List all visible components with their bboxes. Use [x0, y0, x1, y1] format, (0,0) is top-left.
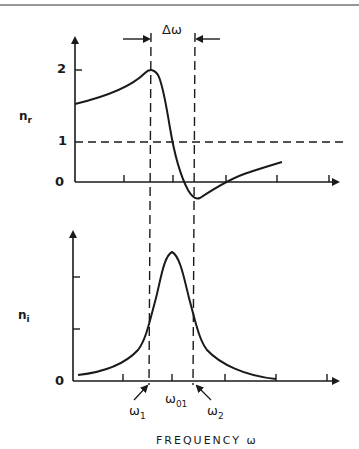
x-axis-label: FREQUENCY ω [156, 434, 258, 447]
delta-omega-text: Δω [162, 22, 182, 37]
omega1-sub: 1 [140, 411, 146, 421]
nr-label-main: n [19, 109, 28, 123]
lower-y-label: ni [18, 308, 30, 324]
upper-tick-label-2: 2 [57, 61, 66, 76]
omega1-dashed-line [149, 33, 151, 385]
upper-y-label: nr [19, 109, 32, 125]
omega2-label: ω2 [207, 403, 224, 421]
omega2-dashed-line [193, 33, 195, 385]
omega1-main: ω [129, 403, 140, 418]
ni-label-main: n [18, 308, 27, 322]
upper-tick-label-1: 1 [58, 133, 67, 148]
omega2-pointer [197, 386, 211, 400]
omega01-label: ω01 [165, 391, 187, 409]
ni-label-sub: i [27, 314, 30, 324]
lower-tick-label-0: 0 [55, 373, 64, 388]
nr-curve [75, 70, 282, 199]
nr-label-sub: r [28, 115, 32, 125]
omega1-label: ω1 [129, 403, 146, 421]
omega01-sub: 01 [176, 399, 187, 409]
ni-curve [78, 252, 276, 379]
lower-x-ticks [123, 374, 327, 381]
upper-panel [75, 38, 343, 199]
upper-tick-label-0: 0 [55, 174, 64, 189]
lower-panel [73, 232, 338, 400]
dispersion-diagram [0, 0, 359, 449]
omega2-main: ω [207, 403, 218, 418]
omega01-main: ω [165, 391, 176, 406]
omega2-sub: 2 [218, 411, 224, 421]
delta-omega-label: Δω [162, 22, 182, 37]
omega1-pointer [134, 386, 147, 400]
